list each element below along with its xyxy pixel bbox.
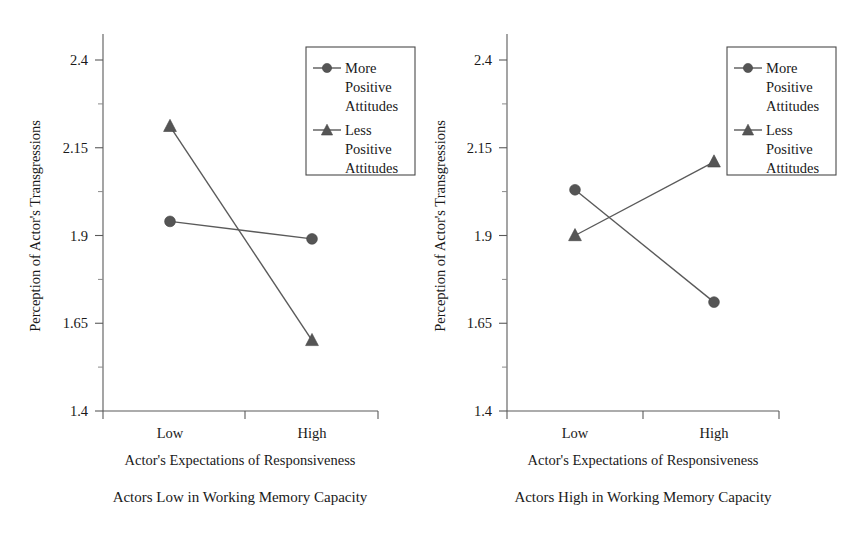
right-legend-label-less-0: Less (766, 122, 793, 138)
left-ytick-label-4: 2.4 (70, 52, 89, 68)
right-x-axis-title: Actor's Expectations of Responsiveness (528, 452, 759, 468)
left-legend-label-more-0: More (345, 60, 376, 76)
right-y-axis-title: Perception of Actor's Transgressions (432, 120, 448, 332)
right-ytick-label-0: 1.4 (474, 403, 493, 419)
left-ytick-label-0: 1.4 (70, 403, 89, 419)
left-point-less-positive-high (306, 333, 319, 345)
left-legend-label-less-2: Attitudes (345, 160, 399, 176)
left-legend-label-more-1: Positive (345, 79, 392, 95)
right-legend-label-less-2: Attitudes (766, 160, 820, 176)
right-point-more-positive-high (709, 297, 720, 308)
left-y-axis-title: Perception of Actor's Transgressions (27, 120, 43, 332)
right-xtick-label-high: High (700, 425, 730, 441)
right-panel-plot: 1.4 1.65 1.9 2.15 2.4 Low High Actor's E… (431, 0, 862, 534)
right-legend-label-more-1: Positive (766, 79, 813, 95)
right-ytick-label-1: 1.65 (467, 315, 492, 331)
left-legend-label-less-0: Less (345, 122, 372, 138)
left-ytick-label-2: 1.9 (70, 228, 88, 244)
right-ytick-label-4: 2.4 (474, 52, 493, 68)
left-series-more-positive-line (170, 221, 312, 239)
two-panel-interaction-figure: 1.4 1.65 1.9 2.15 2.4 Low High Actor's E… (0, 0, 863, 534)
right-series-less-positive-line (575, 162, 714, 236)
panel-high-working-memory: 1.4 1.65 1.9 2.15 2.4 Low High Actor's E… (431, 0, 862, 534)
left-xtick-label-low: Low (157, 425, 184, 441)
left-panel-plot: 1.4 1.65 1.9 2.15 2.4 Low High Actor's E… (0, 0, 431, 534)
right-panel-caption: Actors High in Working Memory Capacity (514, 489, 772, 505)
panel-low-working-memory: 1.4 1.65 1.9 2.15 2.4 Low High Actor's E… (0, 0, 431, 534)
right-xtick-label-low: Low (562, 425, 589, 441)
left-point-more-positive-high (307, 234, 318, 245)
right-ytick-label-2: 1.9 (474, 228, 492, 244)
right-series-more-positive-line (575, 190, 714, 302)
right-legend-label-more-0: More (766, 60, 797, 76)
right-legend[interactable]: More Positive Attitudes Less Positive At… (727, 47, 836, 176)
left-series-less-positive-line (170, 126, 312, 340)
right-point-less-positive-high (708, 155, 721, 167)
right-legend-label-less-1: Positive (766, 141, 813, 157)
right-legend-label-more-2: Attitudes (766, 98, 820, 114)
left-point-more-positive-low (165, 216, 176, 227)
left-xtick-label-high: High (298, 425, 328, 441)
left-legend-label-more-2: Attitudes (345, 98, 399, 114)
right-legend-circle-icon (743, 63, 752, 72)
left-legend[interactable]: More Positive Attitudes Less Positive At… (306, 47, 415, 176)
left-panel-caption: Actors Low in Working Memory Capacity (113, 489, 368, 505)
right-ytick-label-3: 2.15 (467, 140, 492, 156)
right-point-more-positive-low (570, 184, 581, 195)
left-legend-circle-icon (322, 63, 331, 72)
left-ytick-label-3: 2.15 (63, 140, 88, 156)
left-legend-label-less-1: Positive (345, 141, 392, 157)
left-x-axis-title: Actor's Expectations of Responsiveness (125, 452, 356, 468)
left-point-less-positive-low (164, 119, 177, 131)
right-point-less-positive-low (569, 229, 582, 241)
left-ytick-label-1: 1.65 (63, 315, 88, 331)
